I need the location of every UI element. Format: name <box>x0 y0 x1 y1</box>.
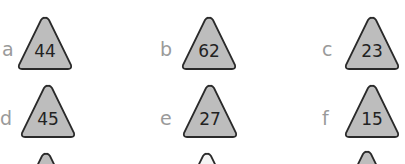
triangle-value-f: 15 <box>343 109 401 129</box>
triangle-value-d: 45 <box>19 109 77 129</box>
triangle-e: 27 <box>181 83 239 139</box>
label-e: e <box>160 109 172 128</box>
label-b: b <box>160 40 172 59</box>
triangle-partial-3 <box>338 149 396 164</box>
triangle-shape-icon <box>17 151 75 164</box>
triangle-value-c: 23 <box>343 41 401 61</box>
triangle-value-e: 27 <box>181 109 239 129</box>
triangle-value-b: 62 <box>180 41 238 61</box>
triangle-shape-icon <box>338 149 396 164</box>
triangle-partial-1 <box>17 151 75 164</box>
triangle-a: 44 <box>16 15 74 71</box>
label-d: d <box>0 109 12 128</box>
triangle-d: 45 <box>19 83 77 139</box>
label-a: a <box>2 40 14 59</box>
triangle-shape-icon <box>178 151 236 164</box>
label-c: c <box>322 40 332 59</box>
triangle-value-a: 44 <box>16 41 74 61</box>
triangle-partial-2 <box>178 151 236 164</box>
label-f: f <box>322 109 329 128</box>
triangle-f: 15 <box>343 83 401 139</box>
triangle-b: 62 <box>180 15 238 71</box>
triangle-c: 23 <box>343 15 401 71</box>
